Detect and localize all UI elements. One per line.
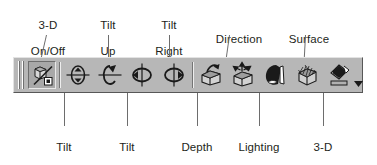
callout-line-1: 3-D [8,19,88,32]
leader-line-depth [197,93,198,126]
callout-line-1: Tilt [99,141,155,154]
toolbar-drag-handle[interactable] [17,61,25,89]
button-direction[interactable] [229,61,257,89]
three-d-toolbar[interactable] [13,57,363,93]
callout-line-1: Tilt [78,19,138,32]
callout-line-1: Tilt [139,19,199,32]
button-tilt-left[interactable] [128,61,156,89]
button-surface[interactable] [293,61,321,89]
leader-line-three-d-color [323,93,324,126]
figure-canvas: 3-D On/Off Tilt Up Tilt Right Direction … [0,0,377,165]
tilt-left-icon [128,61,156,89]
callout-depth: Depth [167,128,227,165]
callout-line-1: Tilt [34,141,94,154]
toolbar-separator-2 [192,62,194,88]
callout-lighting: Lighting [225,128,293,165]
button-lighting[interactable] [261,61,289,89]
callout-line-1: Surface [277,33,341,46]
tilt-right-icon [160,61,188,89]
button-depth[interactable] [197,61,225,89]
callout-line-1: 3-D [295,141,351,154]
lighting-spot-icon [261,61,289,89]
callout-line-1: Direction [201,33,277,46]
paint-bucket-icon [325,61,353,89]
leader-line-tilt-left [127,93,128,126]
leader-line-lighting [259,93,260,126]
direction-cube-icon [229,61,257,89]
callout-direction: Direction [201,20,277,59]
callout-line-1: Depth [167,141,227,154]
callout-line-1: Lighting [225,141,293,154]
depth-cube-icon [197,61,225,89]
cube-slash-icon [29,62,57,90]
callout-tilt-left: Tilt Left [99,128,155,165]
button-tilt-right[interactable] [160,61,188,89]
toolbar-separator-1 [59,62,61,88]
three-d-color-dropdown[interactable] [354,73,363,79]
button-tilt-down[interactable] [64,61,92,89]
callout-tilt-down: Tilt Down [34,128,94,165]
button-three-d-on-off[interactable] [28,61,56,89]
tilt-up-icon [96,61,124,89]
callout-three-d-color: 3-D Color [295,128,351,165]
button-tilt-up[interactable] [96,61,124,89]
leader-line-tilt-down [64,93,65,126]
tilt-down-icon [64,61,92,89]
callout-surface: Surface [277,20,341,59]
surface-cube-icon [293,61,321,89]
button-three-d-color[interactable] [325,61,353,89]
caret-down-icon [354,81,363,87]
